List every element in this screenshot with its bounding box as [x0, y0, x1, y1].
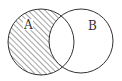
- venn-diagram: A B: [0, 0, 122, 81]
- label-b: B: [88, 19, 97, 33]
- label-a: A: [23, 18, 33, 32]
